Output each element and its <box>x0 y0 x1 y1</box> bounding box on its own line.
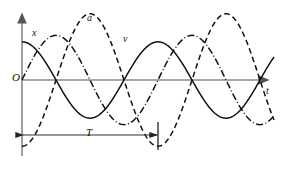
shm-waveform-figure: O t x a v T <box>0 0 284 169</box>
acceleration-curve-label: a <box>87 13 92 23</box>
period-label: T <box>86 127 92 138</box>
velocity-curve-label: v <box>123 34 127 44</box>
time-axis-label: t <box>266 86 269 96</box>
waveform-plot <box>0 0 284 169</box>
displacement-curve-label: x <box>32 28 36 38</box>
origin-label: O <box>12 72 20 83</box>
